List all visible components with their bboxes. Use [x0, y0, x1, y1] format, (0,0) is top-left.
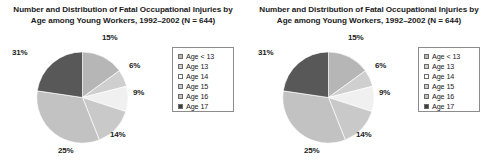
chart-panel-left: Number and Distribution of Fatal Occupat… — [0, 0, 246, 166]
legend-label-age-17: Age 17 — [432, 102, 454, 111]
chart-legend: Age < 13 Age 13 Age 14 Age 15 Age 16 Age… — [418, 47, 480, 112]
legend-item-age-lt-13[interactable]: Age < 13 — [178, 52, 233, 62]
chart-title-line-2: Age among Young Workers, 1992–2002 (N = … — [250, 15, 488, 26]
legend-item-age-14[interactable]: Age 14 — [178, 72, 233, 82]
legend-swatch-icon-age-17 — [178, 104, 183, 109]
legend-swatch-icon-age-16 — [178, 94, 183, 99]
pie-chart-figure-row: Number and Distribution of Fatal Occupat… — [0, 0, 493, 166]
pie-label-age-13: 6% — [375, 61, 386, 70]
legend-label-age-14: Age 14 — [186, 72, 208, 81]
legend-label-age-13: Age 13 — [186, 62, 208, 71]
chart-title: Number and Distribution of Fatal Occupat… — [250, 4, 488, 26]
chart-panel-right: Number and Distribution of Fatal Occupat… — [246, 0, 493, 166]
legend-swatch-icon-age-lt-13 — [424, 54, 429, 59]
pie-slice-age-17[interactable] — [283, 52, 328, 98]
legend-label-age-16: Age 16 — [432, 92, 454, 101]
pie-label-age-lt-13: 15% — [102, 33, 117, 42]
legend-item-age-16[interactable]: Age 16 — [178, 92, 233, 102]
pie-label-age-15: 14% — [110, 130, 125, 139]
legend-label-age-15: Age 15 — [186, 82, 208, 91]
pie-label-age-15: 14% — [356, 130, 371, 139]
legend-swatch-icon-age-13 — [424, 64, 429, 69]
legend-label-age-13: Age 13 — [432, 62, 454, 71]
legend-item-age-16[interactable]: Age 16 — [424, 92, 479, 102]
legend-swatch-icon-age-lt-13 — [178, 54, 183, 59]
legend-item-age-13[interactable]: Age 13 — [424, 62, 479, 72]
pie-label-age-14: 9% — [379, 88, 390, 97]
legend-item-age-15[interactable]: Age 15 — [178, 82, 233, 92]
legend-swatch-icon-age-16 — [424, 94, 429, 99]
chart-title: Number and Distribution of Fatal Occupat… — [4, 4, 242, 26]
legend-item-age-15[interactable]: Age 15 — [424, 82, 479, 92]
legend-swatch-icon-age-14 — [178, 74, 183, 79]
legend-swatch-icon-age-17 — [424, 104, 429, 109]
pie-label-age-17: 31% — [12, 48, 27, 57]
legend-item-age-13[interactable]: Age 13 — [178, 62, 233, 72]
chart-legend: Age < 13 Age 13 Age 14 Age 15 Age 16 Age… — [172, 47, 234, 112]
legend-label-age-lt-13: Age < 13 — [186, 52, 214, 61]
legend-swatch-icon-age-14 — [424, 74, 429, 79]
pie-label-age-14: 9% — [133, 88, 144, 97]
pie-label-age-17: 31% — [258, 48, 273, 57]
legend-label-age-17: Age 17 — [186, 102, 208, 111]
pie-label-age-16: 25% — [304, 146, 319, 155]
legend-swatch-icon-age-13 — [178, 64, 183, 69]
legend-label-age-14: Age 14 — [432, 72, 454, 81]
legend-item-age-17[interactable]: Age 17 — [424, 102, 479, 112]
pie-label-age-13: 6% — [129, 61, 140, 70]
legend-item-age-lt-13[interactable]: Age < 13 — [424, 52, 479, 62]
pie-label-age-16: 25% — [58, 146, 73, 155]
chart-title-line-1: Number and Distribution of Fatal Occupat… — [259, 5, 478, 14]
legend-swatch-icon-age-15 — [178, 84, 183, 89]
legend-label-age-lt-13: Age < 13 — [432, 52, 460, 61]
legend-item-age-14[interactable]: Age 14 — [424, 72, 479, 82]
pie-slice-age-17[interactable] — [37, 52, 82, 98]
legend-item-age-17[interactable]: Age 17 — [178, 102, 233, 112]
chart-title-line-2: Age among Young Workers, 1992–2002 (N = … — [4, 15, 242, 26]
pie-label-age-lt-13: 15% — [348, 33, 363, 42]
legend-label-age-16: Age 16 — [186, 92, 208, 101]
legend-swatch-icon-age-15 — [424, 84, 429, 89]
chart-title-line-1: Number and Distribution of Fatal Occupat… — [13, 5, 232, 14]
legend-label-age-15: Age 15 — [432, 82, 454, 91]
